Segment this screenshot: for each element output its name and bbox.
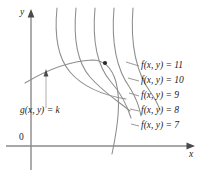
diagram-canvas	[0, 0, 203, 176]
label-leader-line-10	[128, 78, 139, 81]
level-curve-label-7: f(x, y) = 7	[141, 121, 179, 131]
level-curve-label-11: f(x, y) = 11	[141, 61, 183, 71]
tangency-point	[103, 61, 107, 65]
level-curve-label-8: f(x, y) = 8	[141, 106, 179, 116]
label-leader-line-8	[130, 109, 139, 111]
level-curve-label-9: f(x, y) = 9	[141, 91, 179, 101]
y-axis-arrow-icon	[28, 9, 35, 18]
lagrange-multiplier-diagram: y x 0 g(x, y) = k f(x, y) = 11 f(x, y) =…	[0, 0, 203, 176]
level-curve-9	[94, 8, 131, 118]
label-leader-line-7	[131, 124, 139, 126]
x-axis-label: x	[189, 150, 193, 160]
origin-label: 0	[19, 133, 24, 143]
constraint-label: g(x, y) = k	[20, 106, 60, 116]
level-curve-10	[75, 8, 130, 111]
y-axis-label: y	[20, 8, 24, 18]
level-curve-label-10: f(x, y) = 10	[141, 76, 184, 86]
